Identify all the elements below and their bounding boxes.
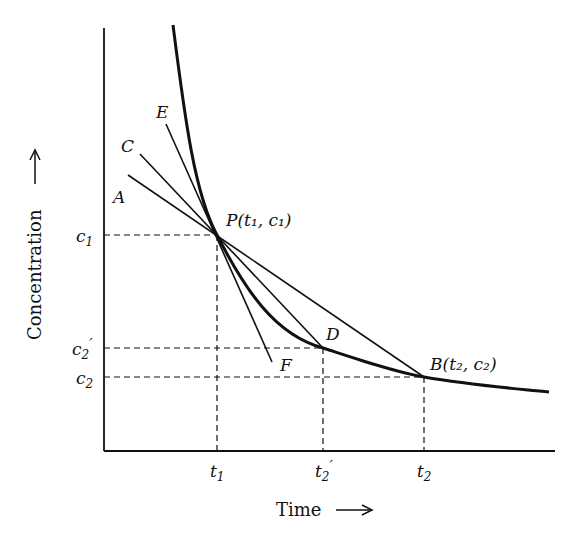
x-tick-t2-prime: t2′ — [315, 457, 333, 484]
label-F: F — [279, 355, 293, 375]
label-A: A — [111, 187, 125, 207]
y-axis-title: Concentration — [24, 209, 45, 340]
line-C-D — [140, 154, 323, 348]
y-tick-c2: c2 — [76, 368, 93, 391]
y-tick-c2-prime: c2′ — [72, 335, 93, 362]
concentration-time-diagram: A C E F D P(t₁, c₁) B(t₂, c₂) c1 c2′ c2 … — [0, 0, 573, 542]
line-E-F — [166, 124, 272, 362]
label-point-P: P(t₁, c₁) — [225, 210, 292, 230]
y-tick-c1: c1 — [76, 226, 93, 249]
x-tick-t2: t2 — [417, 461, 431, 484]
line-A-B — [128, 175, 424, 377]
x-tick-t1: t1 — [210, 461, 224, 484]
label-C: C — [121, 136, 134, 156]
label-E: E — [155, 102, 169, 122]
label-D: D — [325, 324, 340, 344]
x-axis-arrow-icon — [336, 505, 372, 515]
x-axis-title: Time — [276, 499, 321, 520]
label-point-B: B(t₂, c₂) — [429, 354, 497, 374]
concentration-curve — [173, 25, 549, 392]
y-axis-arrow-icon — [30, 150, 40, 184]
